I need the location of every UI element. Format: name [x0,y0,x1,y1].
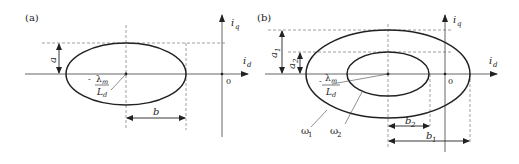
svg-text:m: m [331,77,337,85]
dimension-a-label: a [47,57,58,63]
iq-label: i q [231,17,240,31]
omega1-label: ω 1 [301,125,312,139]
omega2-leader-line [345,92,362,124]
svg-text:i: i [453,14,456,25]
svg-text:q: q [235,23,240,31]
panel-a: (a) a b - λ m L d 0 [25,12,252,137]
svg-text:d: d [247,61,252,69]
dimension-b-label: b [153,106,159,117]
svg-text:i: i [243,55,246,66]
svg-text:1: 1 [308,131,312,139]
svg-text:d: d [493,61,498,69]
svg-text:d: d [103,91,107,99]
center-label-fraction: - λ m L d [319,73,340,99]
svg-text:L: L [96,87,103,97]
center-label-fraction: - λ m L d [88,74,109,99]
origin-dot [444,73,447,76]
dimension-b1-label: b 1 [426,130,436,144]
omega1-leader-line [311,110,327,127]
dimension-a1-label: a 1 [268,48,282,58]
svg-text:i: i [489,55,492,66]
svg-text:-: - [88,75,91,84]
origin-dot [221,73,224,76]
dimension-a2-label: a 2 [286,58,300,69]
svg-text:1: 1 [274,48,282,52]
svg-text:d: d [332,91,336,99]
svg-text:-: - [319,77,322,86]
svg-text:2: 2 [410,121,416,129]
guide-lines [268,24,470,148]
svg-text:2: 2 [292,58,300,64]
iq-label: i q [453,14,462,28]
panel-a-label: (a) [25,12,39,23]
origin-label: 0 [448,77,453,86]
svg-text:1: 1 [432,136,436,144]
svg-text:q: q [457,20,462,28]
id-label: i d [243,55,252,69]
svg-text:L: L [325,87,332,97]
guide-lines [42,25,226,130]
id-label: i d [489,55,498,69]
panel-b: (b) a 1 a 2 b [257,12,498,152]
center-leader-line [332,74,388,84]
svg-text:i: i [231,17,234,28]
svg-text:2: 2 [337,131,341,139]
omega2-label: ω 2 [330,125,341,139]
center-leader-line [111,74,126,90]
panel-b-label: (b) [257,12,271,23]
dimension-b2-label: b 2 [405,115,416,129]
voltage-limit-ellipse-diagram: (a) a b - λ m L d 0 [0,0,519,164]
origin-label: 0 [226,77,231,86]
